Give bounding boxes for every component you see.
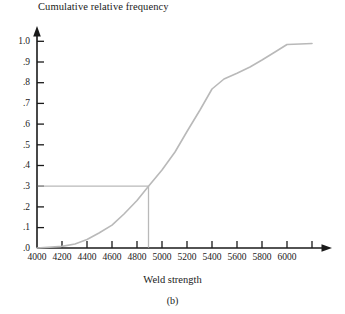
- ytick-label-0-1: .1: [4, 223, 30, 233]
- y-axis: [33, 26, 41, 248]
- y-axis-ticks: [37, 41, 44, 227]
- reference-crosshair: [38, 186, 149, 247]
- ytick-label-0-7: .7: [4, 99, 30, 109]
- ytick-label-0-2: .2: [4, 203, 30, 213]
- ytick-label-0-4: .4: [4, 161, 30, 171]
- ogive-curve: [37, 44, 312, 249]
- figure-panel-b: Cumulative relative frequency: [0, 0, 345, 314]
- ytick-label-0-3: .3: [4, 182, 30, 192]
- ytick-label-1-0: 1.0: [4, 37, 30, 47]
- ytick-label-0-6: .6: [4, 120, 30, 130]
- x-axis-title: Weld strength: [0, 275, 345, 286]
- ogive-plot: [0, 0, 345, 314]
- ytick-label-0-9: .9: [4, 58, 30, 68]
- x-axis-ticks: [62, 241, 312, 248]
- xtick-label-6000: 6000: [267, 253, 307, 263]
- panel-caption: (b): [0, 296, 345, 306]
- ytick-label-0-5: .5: [4, 141, 30, 151]
- ytick-label-0-8: .8: [4, 78, 30, 88]
- x-axis: [37, 244, 332, 252]
